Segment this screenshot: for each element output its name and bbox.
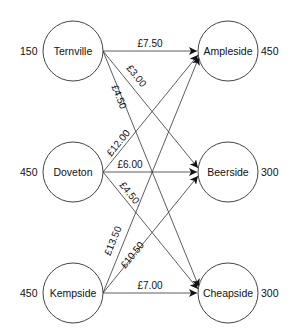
destination-node-cheapside: Cheapside 300: [198, 263, 279, 323]
transportation-network-diagram: £7.50 £3.00 £4.50 £12.00 £6.00 £4.50 £13…: [0, 0, 297, 336]
supply-value: 150: [20, 45, 38, 57]
supply-value: 450: [20, 287, 38, 299]
cost-labels: £7.50 £3.00 £4.50 £12.00 £6.00 £4.50 £13…: [102, 38, 163, 291]
cost-doveton-beerside: £6.00: [117, 159, 142, 170]
cost-ternville-beerside: £3.00: [125, 63, 150, 90]
demand-value: 450: [261, 45, 279, 57]
node-label: Beerside: [207, 166, 249, 178]
edge-doveton-ampleside: [103, 55, 198, 172]
demand-value: 300: [261, 166, 279, 178]
cost-doveton-cheapside: £4.50: [118, 180, 143, 207]
node-label: Doveton: [53, 166, 92, 178]
source-node-ternville: Ternville 150: [20, 21, 103, 81]
node-label: Ampleside: [203, 45, 252, 57]
destination-node-ampleside: Ampleside 450: [198, 21, 279, 81]
cost-kempside-ampleside: £13.50: [102, 224, 124, 257]
node-label: Ternville: [54, 45, 93, 57]
cost-kempside-beerside: £10.50: [118, 239, 146, 270]
cost-ternville-ampleside: £7.50: [137, 38, 162, 49]
source-node-doveton: Doveton 450: [20, 142, 103, 202]
destination-node-beerside: Beerside 300: [198, 142, 279, 202]
node-label: Kempside: [50, 287, 97, 299]
supply-value: 450: [20, 166, 38, 178]
demand-value: 300: [261, 287, 279, 299]
cost-ternville-cheapside: £4.50: [109, 83, 129, 111]
cost-kempside-cheapside: £7.00: [137, 280, 162, 291]
source-node-kempside: Kempside 450: [20, 263, 103, 323]
node-label: Cheapside: [203, 287, 253, 299]
